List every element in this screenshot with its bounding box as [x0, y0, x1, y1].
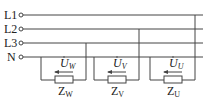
svg-text:ZW: ZW — [58, 84, 73, 99]
circuit-diagram: L1 L2 L3 N UW UV UU ZW ZV ZU — [0, 0, 203, 101]
resistor-zu — [164, 76, 182, 83]
arrowhead-icon — [54, 70, 59, 74]
impedance-u-sub: U — [174, 90, 180, 99]
impedance-u-symbol: Z — [167, 84, 174, 98]
svg-text:L3: L3 — [4, 36, 17, 50]
label-l3: L3 — [4, 36, 17, 50]
arrowhead-icon — [107, 70, 112, 74]
svg-text:ZU: ZU — [167, 84, 180, 99]
impedance-v-sub: V — [118, 90, 124, 99]
label-n: N — [7, 50, 16, 64]
label-l2: L2 — [4, 22, 17, 36]
svg-text:UV: UV — [113, 56, 128, 71]
arrowhead-icon — [163, 70, 168, 74]
impedance-w-sub: W — [65, 90, 73, 99]
voltage-w-sub: W — [69, 62, 77, 71]
load-u-left — [150, 57, 164, 80]
voltage-u-sub: U — [178, 62, 185, 71]
terminal-n — [19, 55, 23, 59]
resistor-zw — [55, 76, 73, 83]
load-v-right — [126, 29, 139, 80]
resistor-zv — [108, 76, 126, 83]
svg-text:N: N — [7, 50, 16, 64]
voltage-v-sub: V — [122, 62, 128, 71]
terminal-l3 — [19, 41, 23, 45]
impedance-v-symbol: Z — [111, 84, 118, 98]
svg-text:L1: L1 — [4, 8, 17, 22]
svg-text:ZV: ZV — [111, 84, 124, 99]
load-w-left — [41, 57, 55, 80]
terminal-l2 — [19, 27, 23, 31]
terminal-l1 — [19, 13, 23, 17]
svg-text:UU: UU — [169, 56, 185, 71]
svg-text:UW: UW — [60, 56, 77, 71]
impedance-w-symbol: Z — [58, 84, 65, 98]
load-v-left — [94, 57, 108, 80]
load-u-right — [182, 15, 195, 80]
label-l1: L1 — [4, 8, 17, 22]
svg-text:L2: L2 — [4, 22, 17, 36]
